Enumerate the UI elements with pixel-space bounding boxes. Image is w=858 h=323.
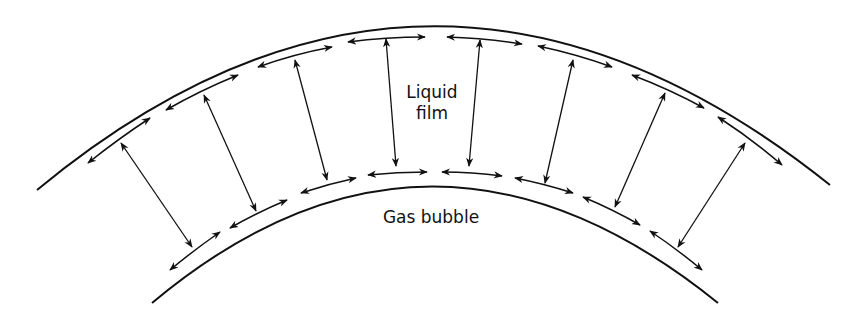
double-arrow-icon [469,40,480,166]
double-arrow-icon [583,197,640,225]
double-arrow-icon [88,118,150,163]
double-arrow-icon [515,178,573,193]
liquid-film-label-line2: film [416,103,448,123]
double-arrow-icon [295,60,327,180]
double-arrow-icon [230,200,287,228]
liquid-film-label-line1: Liquid [406,82,457,102]
double-arrow-icon [632,75,704,108]
double-arrow-icon [442,172,502,176]
double-arrow-icon [121,143,192,247]
double-arrow-icon [447,37,522,44]
double-arrow-icon [368,172,427,175]
double-arrow-icon [718,117,782,165]
double-arrow-icon [538,46,612,67]
double-arrow-icon [170,232,220,270]
gas-bubble-label: Gas bubble [383,207,479,227]
liquid-film-diagram: Liquid film Gas bubble [0,0,858,323]
double-arrow-icon [615,93,665,207]
double-arrow-icon [166,75,238,110]
double-arrow-icon [204,95,256,211]
double-arrow-icon [258,47,332,67]
gas-bubble-surface [152,187,718,304]
double-arrow-icon [678,143,745,247]
double-arrow-icon [301,178,356,193]
double-arrow-icon [545,60,573,183]
double-arrow-icon [650,231,702,270]
double-arrow-icon [386,39,396,166]
